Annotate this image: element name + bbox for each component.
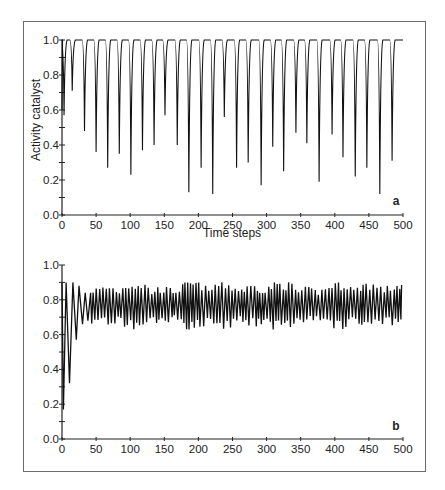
x-tick-label: 0 [59, 219, 65, 231]
x-tick-label: 450 [359, 219, 378, 231]
y-tick-label: 0.2 [43, 174, 59, 186]
x-tick-label: 150 [155, 219, 174, 231]
panel-a-label: a [393, 194, 400, 208]
y-tick-label: 0.8 [43, 294, 59, 306]
x-tick-label: 500 [393, 219, 412, 231]
x-tick-label: 100 [121, 443, 140, 455]
y-tick-label: 0.8 [43, 69, 59, 81]
x-tick-label: 100 [121, 219, 140, 231]
x-tick-label: 300 [257, 443, 276, 455]
x-tick-label: 500 [393, 443, 412, 455]
x-tick-label: 350 [291, 219, 310, 231]
caption-cutoff [26, 482, 426, 490]
panel-a-chart: 0501001502002503003504004505000.00.20.40… [29, 34, 413, 240]
panel-a-y-axis-title: Activity catalyst [29, 78, 43, 161]
x-tick-label: 200 [189, 443, 208, 455]
panel-b-label: b [392, 419, 399, 433]
y-tick-label: 0.6 [43, 329, 59, 341]
panel-a-activity-line [62, 40, 403, 194]
y-tick-label: 1.0 [43, 259, 59, 271]
y-tick-label: 0.4 [43, 363, 60, 375]
figure-chart: 0501001502002503003504004505000.00.20.40… [0, 0, 445, 490]
panel-a-x-axis-title: Time steps [203, 226, 261, 240]
x-tick-label: 250 [223, 443, 242, 455]
y-tick-label: 1.0 [43, 34, 59, 46]
x-tick-label: 150 [155, 443, 174, 455]
x-tick-label: 400 [325, 443, 344, 455]
x-tick-label: 50 [90, 443, 103, 455]
panel-b-chart: 0501001502002503003504004505000.00.20.40… [43, 259, 413, 455]
x-tick-label: 350 [291, 443, 310, 455]
y-tick-label: 0.0 [43, 209, 59, 221]
y-tick-label: 0.0 [43, 433, 59, 445]
x-tick-label: 0 [59, 443, 65, 455]
y-tick-label: 0.6 [43, 104, 59, 116]
panel-b-activity-line [62, 282, 402, 409]
y-tick-label: 0.4 [43, 139, 60, 151]
x-tick-label: 50 [90, 219, 103, 231]
x-tick-label: 400 [325, 219, 344, 231]
x-tick-label: 450 [359, 443, 378, 455]
y-tick-label: 0.2 [43, 398, 59, 410]
